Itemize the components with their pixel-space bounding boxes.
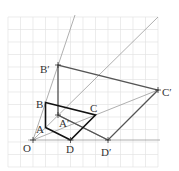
label-o: O [23, 142, 31, 154]
label-d-prime: D′ [101, 146, 111, 158]
label-c-prime: C′ [162, 86, 172, 98]
label-a-prime: A′ [59, 117, 69, 129]
homothety-diagram: O A B C D A′ B′ C′ D′ [0, 0, 179, 171]
label-b: B [36, 98, 43, 110]
label-b-prime: B′ [40, 63, 50, 75]
label-d: D [66, 143, 74, 155]
label-a: A [36, 123, 44, 135]
label-c: C [90, 102, 97, 114]
